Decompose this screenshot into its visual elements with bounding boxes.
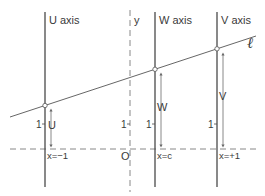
v-value-label: V (219, 90, 227, 102)
u-x-label: x=−1 (47, 150, 68, 161)
w-tick-label: 1 (146, 119, 152, 130)
v-x-label: x=+1 (219, 150, 240, 161)
line-ell-label: ℓ (247, 35, 253, 51)
nomogram-diagram: U axis y W axis V axis ℓ U W V 1 1 1 1 O… (0, 0, 265, 196)
w-axis-title: W axis (159, 14, 193, 26)
w-intersection-point (153, 67, 157, 71)
u-intersection-point (43, 103, 47, 107)
v-tick-label: 1 (208, 119, 214, 130)
y-axis-title: y (134, 14, 140, 26)
u-axis-title: U axis (49, 14, 80, 26)
w-x-label: x=c (157, 150, 172, 161)
v-intersection-point (215, 47, 219, 51)
origin-label: O (121, 150, 130, 162)
u-tick-label: 1 (36, 119, 42, 130)
w-value-label: W (157, 101, 168, 113)
v-axis-title: V axis (221, 14, 251, 26)
y-tick-label: 1 (121, 119, 127, 130)
u-value-label: U (48, 119, 56, 131)
